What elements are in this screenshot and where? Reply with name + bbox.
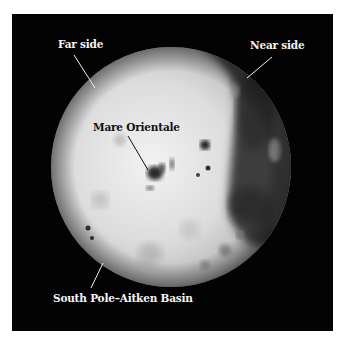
south-pole-aitken-label: South Pole–Aitken Basin — [53, 292, 193, 304]
south-pole-aitken-leader-line — [91, 263, 103, 288]
moon-photo-frame — [12, 14, 333, 331]
far-side-leader-line — [74, 55, 95, 88]
near-side-label: Near side — [250, 39, 304, 51]
moon-image — [12, 14, 333, 331]
far-side-label: Far side — [58, 38, 103, 50]
near-side-leader-line — [247, 57, 272, 78]
mare-orientale-label: Mare Orientale — [93, 121, 180, 133]
